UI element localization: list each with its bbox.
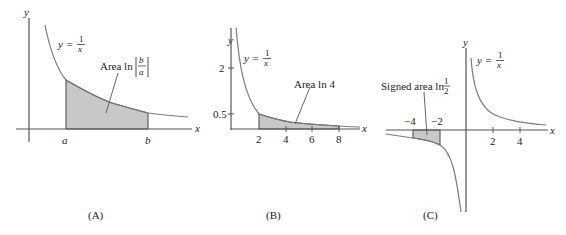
x-tick-label-2c: 2 [490, 135, 496, 147]
y-axis-label-b: y [227, 34, 233, 46]
curve-label-a: y = 1 x [57, 34, 85, 54]
y-tick-label-0.5: 0.5 [213, 108, 227, 120]
curve-label-b: y = 1 x [243, 48, 271, 68]
figure-canvas: y x a b y = 1 x Area ln b a (A) y x 2 0.… [0, 0, 566, 235]
shaded-area-b [259, 114, 339, 129]
x-axis-label-a: x [194, 122, 200, 134]
svg-text:a: a [139, 67, 144, 77]
caption-a: (A) [88, 209, 104, 222]
panel-a [16, 18, 192, 142]
svg-text:Signed area ln: Signed area ln [381, 80, 444, 92]
svg-text:2: 2 [444, 86, 449, 96]
x-tick-label-4c: 4 [517, 135, 523, 147]
curve-label-c: y = 1 x [476, 50, 504, 70]
caption-c: (C) [423, 209, 438, 222]
svg-text:Area ln: Area ln [100, 60, 133, 72]
leader-c [424, 92, 427, 135]
curve-c-right [471, 58, 546, 125]
area-label-b: Area ln 4 [294, 78, 335, 90]
x-axis-label-b: x [361, 122, 367, 134]
y-axis-label-a: y [23, 6, 29, 18]
svg-text:1: 1 [265, 48, 270, 58]
svg-text:x: x [496, 60, 501, 70]
area-label-a: Area ln b a [100, 55, 148, 77]
svg-text:x: x [263, 58, 268, 68]
svg-text:1: 1 [444, 76, 449, 86]
tick-label-b: b [145, 134, 151, 146]
svg-text:1: 1 [79, 34, 84, 44]
panel-c [386, 48, 548, 212]
x-tick-label-2: 2 [256, 133, 262, 145]
caption-b: (B) [266, 209, 281, 222]
x-tick-label-4: 4 [283, 133, 289, 145]
x-tick-label-neg2: −2 [431, 115, 443, 127]
svg-text:1: 1 [498, 50, 503, 60]
x-tick-label-neg4: −4 [404, 115, 416, 127]
leader-b [295, 87, 310, 124]
svg-text:y =: y = [476, 54, 492, 66]
area-label-c: Signed area ln 1 2 [381, 76, 450, 96]
svg-text:y =: y = [57, 38, 73, 50]
x-tick-label-8: 8 [336, 133, 342, 145]
curve-c-left [386, 134, 461, 212]
x-tick-label-6: 6 [309, 133, 315, 145]
y-tick-label-2: 2 [219, 62, 225, 74]
svg-text:x: x [77, 44, 82, 54]
x-axis-label-c: x [549, 124, 555, 136]
tick-label-a: a [62, 134, 68, 146]
y-axis-label-c: y [462, 36, 468, 48]
svg-text:b: b [139, 55, 144, 65]
svg-text:y =: y = [243, 52, 259, 64]
